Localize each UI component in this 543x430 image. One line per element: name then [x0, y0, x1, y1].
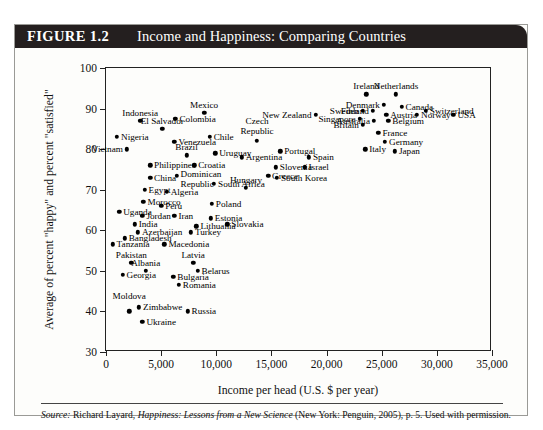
data-point-label: Argentina	[246, 152, 283, 162]
y-axis-tick	[100, 311, 106, 312]
data-point-label: Russia	[192, 306, 217, 316]
y-axis-tick-label: 50	[86, 265, 98, 277]
data-point	[386, 119, 390, 123]
data-point	[125, 147, 129, 151]
data-point-label: Chile	[214, 132, 234, 142]
data-point	[140, 214, 144, 218]
source-prefix: Source:	[41, 409, 70, 420]
data-point	[127, 309, 131, 313]
data-point	[209, 216, 213, 220]
x-axis-tick-label: 20,000	[311, 358, 343, 370]
y-axis-tick-label: 60	[86, 224, 98, 236]
y-axis-tick	[100, 109, 106, 110]
data-point	[189, 230, 193, 234]
data-point-label: USA	[457, 110, 475, 120]
y-axis-label: Average of percent "happy" and percent "…	[41, 67, 57, 351]
x-axis-tick	[271, 350, 272, 356]
data-point	[174, 173, 178, 177]
data-point	[148, 175, 152, 179]
x-axis-tick	[106, 350, 107, 356]
data-point-label: Poland	[216, 199, 242, 209]
data-point-label: Algeria	[171, 187, 199, 197]
x-axis-tick	[216, 350, 217, 356]
data-point	[361, 123, 365, 127]
figure-title: Income and Happiness: Comparing Countrie…	[137, 28, 406, 45]
data-point-label: Zimbabwe	[143, 302, 182, 312]
figure-number: FIGURE 1.2	[27, 28, 109, 45]
data-point	[148, 163, 152, 167]
x-axis-label: Income per head (U.S. $ per year)	[105, 383, 491, 398]
data-point-label: Tanzania	[117, 239, 150, 249]
data-point-label: Moldova	[105, 291, 153, 301]
x-axis-tick-label: 30,000	[421, 358, 453, 370]
data-point-label: Hungary	[230, 175, 262, 185]
x-axis-tick-label: 35,000	[476, 358, 508, 370]
data-point-label: Brazil	[175, 142, 197, 152]
data-point-label: Vietnam	[92, 144, 123, 154]
data-point-label: Nigeria	[121, 132, 149, 142]
data-point	[115, 135, 119, 139]
x-axis-tick	[161, 350, 162, 356]
data-point	[184, 153, 188, 157]
data-point	[140, 319, 144, 323]
data-point-label: Slovakia	[231, 219, 263, 229]
data-point	[363, 147, 367, 151]
data-point	[172, 214, 176, 218]
data-point-label: Czech Republic	[233, 116, 281, 136]
data-point	[384, 112, 388, 116]
data-point-label: Peru	[165, 201, 182, 211]
y-axis-tick	[100, 68, 106, 69]
data-point-label: Georgia	[127, 270, 156, 280]
y-axis-tick-label: 40	[86, 305, 98, 317]
x-axis-tick	[327, 350, 328, 356]
data-point-label: Italy	[369, 144, 386, 154]
data-point-label: Britain	[333, 120, 359, 130]
x-axis-tick-label: 10,000	[200, 358, 232, 370]
y-axis-tick-label: 100	[80, 62, 97, 74]
data-point	[185, 309, 189, 313]
data-point	[376, 131, 380, 135]
data-point	[382, 102, 386, 106]
source-divider	[41, 403, 503, 404]
data-point	[177, 283, 181, 287]
x-axis-tick-label: 5,000	[148, 358, 174, 370]
x-axis-tick-label: 0	[103, 358, 109, 370]
data-point	[364, 92, 368, 96]
source-rest: (New York: Penguin, 2005), p. 5. Used wi…	[295, 409, 511, 420]
data-point-label: Romania	[183, 280, 216, 290]
y-axis-tick	[100, 271, 106, 272]
data-point	[141, 200, 145, 204]
data-point	[142, 188, 146, 192]
x-axis-tick	[437, 350, 438, 356]
data-point-label: Iran	[178, 211, 193, 221]
y-axis-tick-label: 70	[86, 184, 98, 196]
data-point	[132, 222, 136, 226]
data-point	[160, 127, 164, 131]
data-point	[399, 104, 403, 108]
data-point-label: Macedonia	[168, 239, 209, 249]
data-point-label: Belgium	[392, 116, 424, 126]
source-author: Richard Layard,	[73, 409, 135, 420]
data-point-label: El Salvador	[141, 116, 184, 126]
y-axis-tick-label: 90	[86, 103, 98, 115]
data-point-label: Japan	[399, 146, 420, 156]
y-axis-tick	[100, 190, 106, 191]
data-point	[394, 92, 398, 96]
data-point-label: Turkey	[195, 227, 221, 237]
data-point	[239, 155, 243, 159]
data-point	[274, 165, 278, 169]
y-axis-tick-label: 30	[86, 346, 98, 358]
data-point-label: Colombia	[179, 114, 215, 124]
data-point-label: Spain	[313, 152, 334, 162]
data-point-label: Norway	[421, 110, 451, 120]
data-point	[137, 305, 141, 309]
data-point	[159, 204, 163, 208]
x-axis-tick	[492, 350, 493, 356]
data-point	[210, 202, 214, 206]
scatter-plot-area: 3040506070809010005,00010,00015,00020,00…	[105, 67, 491, 351]
data-point	[171, 275, 175, 279]
data-point	[192, 163, 196, 167]
y-axis-label-text: Average of percent "happy" and percent "…	[42, 89, 57, 329]
data-point	[162, 242, 166, 246]
source-work: Happiness: Lessons from a New Science	[138, 409, 293, 420]
